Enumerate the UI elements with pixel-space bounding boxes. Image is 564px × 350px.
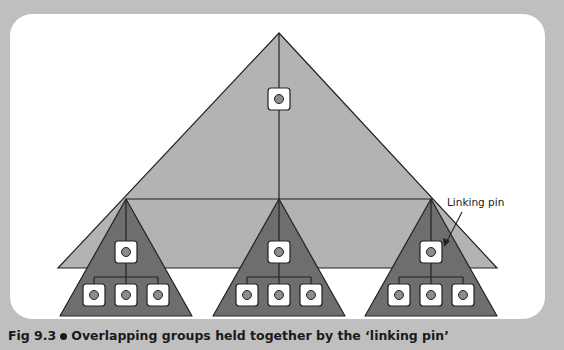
top-node [268, 88, 290, 110]
left-leader-node [115, 241, 137, 263]
caption-text: Overlapping groups held together by the … [71, 328, 449, 343]
middle-member-node [300, 284, 322, 306]
linking-pin-diagram: Linking pin [0, 0, 564, 350]
middle-member-node [268, 284, 290, 306]
figure-caption: Fig 9.3Overlapping groups held together … [8, 328, 449, 343]
right-member-node [452, 284, 474, 306]
right-leader-node [420, 241, 442, 263]
middle-leader-node [268, 241, 290, 263]
left-member-node [115, 284, 137, 306]
bullet-icon [60, 333, 67, 340]
linking-pin-label: Linking pin [447, 196, 504, 208]
left-member-node [83, 284, 105, 306]
left-member-node [147, 284, 169, 306]
middle-member-node [236, 284, 258, 306]
right-member-node [420, 284, 442, 306]
figure-frame: Linking pin Fig 9.3Overlapping groups he… [0, 0, 564, 350]
right-member-node [388, 284, 410, 306]
figure-number: Fig 9.3 [8, 328, 56, 343]
